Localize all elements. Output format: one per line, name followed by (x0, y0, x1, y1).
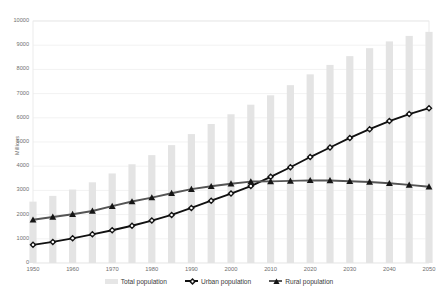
urban-population-line-swatch-icon (185, 277, 198, 285)
total-population-bar (208, 124, 215, 263)
y-axis-tick-label: 5000 (0, 139, 29, 145)
rural-population-line-swatch-icon (269, 277, 282, 285)
y-axis-tick-label: 0 (0, 260, 29, 266)
legend-label-total-population: Total population (121, 278, 167, 285)
total-population-bar (128, 164, 135, 263)
y-axis-tick-label: 4000 (0, 163, 29, 169)
total-population-bar (69, 190, 76, 263)
total-population-bar (287, 85, 294, 263)
total-population-bar (366, 48, 373, 263)
x-axis-tick-label: 2010 (256, 267, 286, 273)
legend-item-total-population[interactable]: Total population (105, 278, 167, 285)
legend-item-urban-population[interactable]: Urban population (185, 277, 251, 285)
y-axis-tick-label: 2000 (0, 212, 29, 218)
y-axis-tick-label: 10000 (0, 18, 29, 24)
legend-label-rural-population: Rural population (285, 278, 333, 285)
total-population-bar (406, 36, 413, 263)
x-axis-tick-label: 1950 (18, 267, 48, 273)
legend-label-urban-population: Urban population (201, 278, 251, 285)
x-axis-tick-label: 1970 (97, 267, 127, 273)
x-axis-tick-label: 2020 (295, 267, 325, 273)
x-axis-tick-label: 2000 (216, 267, 246, 273)
y-axis-tick-label: 8000 (0, 66, 29, 72)
total-population-bar (168, 145, 175, 263)
total-population-bar (425, 32, 432, 263)
total-population-bar (29, 202, 36, 263)
total-population-bar (89, 182, 96, 263)
y-axis-tick-label: 1000 (0, 236, 29, 242)
total-population-bar (307, 74, 314, 263)
population-chart: Millions 0100020003000400050006000700080… (0, 0, 438, 307)
x-axis-tick-label: 1980 (137, 267, 167, 273)
total-population-bar-swatch-icon (105, 279, 118, 284)
y-axis-tick-label: 3000 (0, 187, 29, 193)
x-axis-tick-label: 2040 (374, 267, 404, 273)
total-population-bar (346, 56, 353, 263)
x-axis-tick-label: 1990 (176, 267, 206, 273)
x-axis-tick-label: 2030 (335, 267, 365, 273)
x-axis-tick-label: 1960 (58, 267, 88, 273)
y-axis-tick-label: 6000 (0, 115, 29, 121)
y-axis-tick-label: 7000 (0, 91, 29, 97)
total-population-bar (326, 65, 333, 263)
plot-area (0, 0, 438, 307)
total-population-bar (109, 173, 116, 263)
x-axis-tick-label: 2050 (414, 267, 438, 273)
legend-item-rural-population[interactable]: Rural population (269, 277, 333, 285)
total-population-bar (386, 41, 393, 263)
total-population-bar (49, 196, 56, 263)
total-population-bar (188, 134, 195, 263)
total-population-bar (227, 114, 234, 263)
total-population-bar (148, 155, 155, 263)
chart-legend: Total population Urban population Rural … (0, 277, 438, 285)
y-axis-tick-label: 9000 (0, 42, 29, 48)
